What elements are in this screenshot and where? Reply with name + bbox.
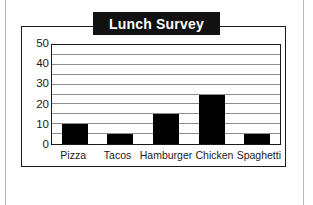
x-axis: PizzaTacosHamburgerChickenSpaghetti	[51, 147, 281, 163]
bar-tacos[interactable]	[107, 134, 133, 144]
bar-pizza[interactable]	[62, 124, 88, 144]
bar-series	[52, 45, 280, 144]
x-axis-tick-label: Spaghetti	[237, 147, 281, 163]
chart-title: Lunch Survey	[93, 12, 220, 35]
bar-slot	[143, 45, 189, 144]
x-axis-tick-label: Chicken	[192, 147, 236, 163]
x-axis-tick-label: Hamburger	[140, 147, 193, 163]
bar-spaghetti[interactable]	[244, 134, 270, 144]
bar-slot	[234, 45, 280, 144]
y-axis-tick-label: 50	[36, 38, 49, 50]
plot-area	[51, 44, 281, 145]
y-axis: 01020304050	[21, 44, 49, 145]
bar-slot	[98, 45, 144, 144]
chart-page: Lunch Survey 01020304050 PizzaTacosHambu…	[0, 0, 313, 205]
x-axis-tick-label: Tacos	[95, 147, 139, 163]
bar-slot	[189, 45, 235, 144]
page-rule-right	[303, 0, 304, 205]
y-axis-tick-label: 10	[36, 119, 49, 131]
bar-chicken[interactable]	[199, 95, 225, 145]
page-rule-left	[5, 0, 6, 205]
bar-slot	[52, 45, 98, 144]
y-axis-tick-label: 0	[43, 139, 49, 151]
plot-region	[51, 44, 281, 145]
y-axis-tick-label: 30	[36, 79, 49, 91]
y-axis-tick-label: 20	[36, 99, 49, 111]
bar-hamburger[interactable]	[153, 114, 179, 144]
y-axis-tick-label: 40	[36, 58, 49, 70]
x-axis-tick-label: Pizza	[51, 147, 95, 163]
